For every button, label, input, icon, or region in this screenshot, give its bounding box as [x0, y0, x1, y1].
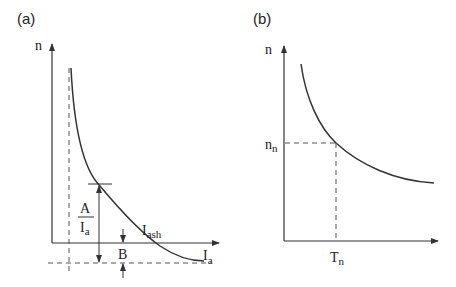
panel-b-label: (b) [253, 10, 271, 27]
y-axis-label: n [265, 42, 272, 57]
panel-a: (a) n Ia A Ia Iash B [17, 10, 219, 278]
y-axis-label: n [35, 38, 42, 53]
characteristic-curve [301, 64, 434, 183]
curve-label: Iash [142, 223, 162, 240]
offset-label: B [118, 247, 127, 262]
characteristic-curve [71, 68, 204, 261]
diagram-canvas: (a) n Ia A Ia Iash B (b) n [0, 0, 456, 287]
rated-speed-label: nn [265, 137, 278, 154]
panel-a-label: (a) [17, 10, 35, 27]
rated-torque-label: Tn [330, 250, 345, 267]
fraction-denominator: Ia [80, 220, 90, 237]
panel-b: (b) n nn Tn [253, 10, 438, 267]
fraction-numerator: A [80, 201, 91, 216]
